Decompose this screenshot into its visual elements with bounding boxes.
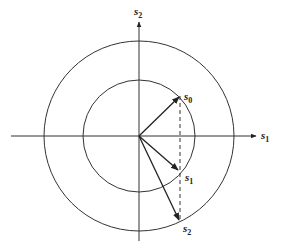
signal-space-diagram: s2 s1 s0 s1 s2 [0, 0, 281, 252]
vector-s2 [139, 136, 179, 220]
s2-label: s2 [182, 222, 191, 237]
s1-label: s1 [184, 171, 193, 186]
vector-s1 [139, 136, 178, 170]
vector-s0 [139, 97, 179, 136]
s2-axis-label: s2 [133, 5, 142, 20]
s1-axis-label: s1 [260, 129, 269, 144]
